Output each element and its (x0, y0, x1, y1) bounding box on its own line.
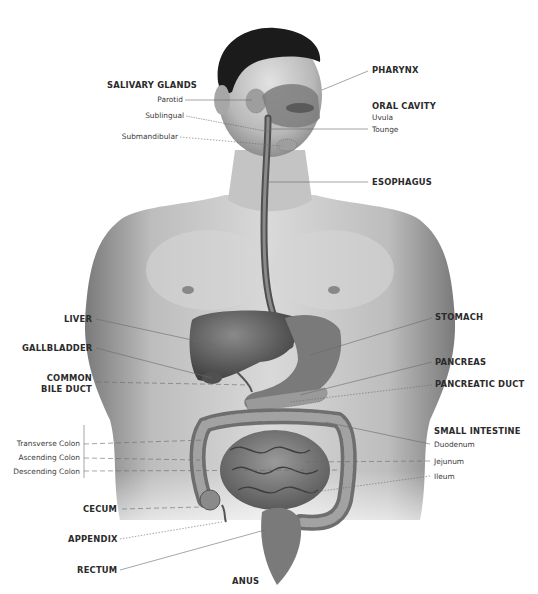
label-tounge: Tounge (372, 126, 398, 133)
label-rectum: RECTUM (77, 566, 117, 574)
label-oral-cavity: ORAL CAVITY (372, 102, 436, 110)
cecum (200, 490, 220, 510)
label-ileum: Ileum (434, 473, 455, 480)
label-anus: ANUS (232, 577, 259, 585)
label-descending-colon: Descending Colon (0, 468, 80, 475)
label-appendix: APPENDIX (68, 535, 118, 543)
label-common-bile-duct-line2: BILE DUCT (30, 385, 92, 393)
label-esophagus: ESOPHAGUS (372, 178, 432, 186)
label-ascending-colon: Ascending Colon (4, 454, 80, 461)
label-small-intestine: SMALL INTESTINE (434, 427, 521, 435)
label-submandibular: Submandibular (108, 133, 178, 140)
parotid-gland (246, 89, 266, 113)
label-gallbladder: GALLBLADDER (22, 344, 93, 352)
label-parotid: Parotid (150, 96, 183, 103)
label-pharynx: PHARYNX (372, 66, 419, 74)
rectum (261, 508, 301, 585)
label-transverse-colon: Transverse Colon (4, 440, 80, 447)
label-pancreas: PANCREAS (435, 358, 486, 366)
label-pancreatic-duct: PANCREATIC DUCT (435, 380, 525, 388)
label-uvula: Uvula (372, 114, 393, 121)
submandibular-gland (277, 139, 297, 151)
label-liver: LIVER (64, 315, 92, 323)
label-common-bile-duct-line1: COMMON (40, 374, 92, 382)
label-duodenum: Duodenum (434, 441, 475, 448)
label-stomach: STOMACH (435, 313, 483, 321)
label-sublingual: Sublingual (132, 112, 184, 119)
label-jejunum: Jejunum (434, 458, 464, 465)
digestive-system-illustration (0, 0, 538, 594)
label-salivary-glands: SALIVARY GLANDS (107, 81, 197, 89)
label-cecum: CECUM (83, 505, 117, 513)
neck (228, 150, 312, 211)
small-intestine (220, 430, 330, 510)
